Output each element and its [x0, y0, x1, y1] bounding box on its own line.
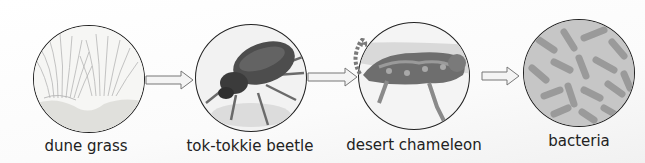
tok-tokkie-beetle-circle	[195, 24, 307, 132]
dune-grass-circle	[33, 25, 145, 133]
arrow-icon	[145, 70, 195, 90]
dune-grass-label: dune grass	[44, 137, 127, 155]
beetle-icon	[196, 25, 307, 132]
desert-chameleon-circle	[358, 22, 470, 130]
tok-tokkie-beetle-label: tok-tokkie beetle	[186, 137, 313, 155]
chameleon-tail-icon	[350, 36, 368, 76]
bacteria-circle	[523, 19, 635, 127]
desert-chameleon-label: desert chameleon	[346, 136, 481, 154]
dune-grass-icon	[34, 26, 145, 133]
bacteria-label: bacteria	[548, 132, 610, 150]
bacteria-icon	[524, 20, 635, 127]
chameleon-icon	[359, 23, 470, 130]
arrow-icon	[481, 66, 521, 86]
